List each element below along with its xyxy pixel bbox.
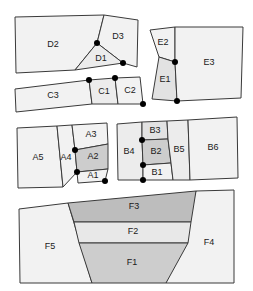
vertex-a2-a1-icon [74,169,80,175]
vertex-c1-c2-icon [112,75,118,81]
region-c2[interactable] [115,77,143,104]
vertex-b3-b2-icon [139,137,145,143]
figure-root: D2D3D1E2E1E3C3C1C2A5A4A3A2A1B4B3B2B1B5B6… [0,0,253,291]
region-e3[interactable] [175,27,243,101]
vertex-e-lower-icon [174,98,180,104]
vertex-d1-right-icon [120,60,126,66]
vertex-a3-a2-icon [72,147,78,153]
region-c1[interactable] [89,78,118,104]
region-b1[interactable] [143,163,173,180]
region-b3[interactable] [142,121,168,140]
vertex-b1-corner-icon [140,177,146,183]
region-f2[interactable] [74,222,191,243]
region-map-diagram: D2D3D1E2E1E3C3C1C2A5A4A3A2A1B4B3B2B1B5B6… [0,0,253,291]
vertex-c3-c1-icon [86,77,92,83]
region-b2[interactable] [142,139,171,165]
regions-layer [15,15,243,283]
vertex-a1-corner-icon [102,178,108,184]
vertex-c2-corner-icon [140,101,146,107]
region-a5[interactable] [17,126,63,188]
vertex-d1-apex-icon [94,40,100,46]
region-b4[interactable] [117,122,143,180]
region-b6[interactable] [188,117,238,180]
vertex-b2-b1-icon [140,162,146,168]
vertex-e-upper-icon [172,59,178,65]
